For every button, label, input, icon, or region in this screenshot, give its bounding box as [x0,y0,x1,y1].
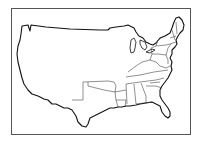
us-outline-map [0,0,201,141]
map-canvas [0,0,201,141]
us-outline [17,17,184,127]
